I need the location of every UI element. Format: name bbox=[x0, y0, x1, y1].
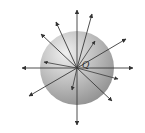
field-diagram bbox=[0, 0, 145, 133]
charge-label: Q bbox=[82, 60, 89, 70]
field-lines bbox=[22, 10, 133, 125]
